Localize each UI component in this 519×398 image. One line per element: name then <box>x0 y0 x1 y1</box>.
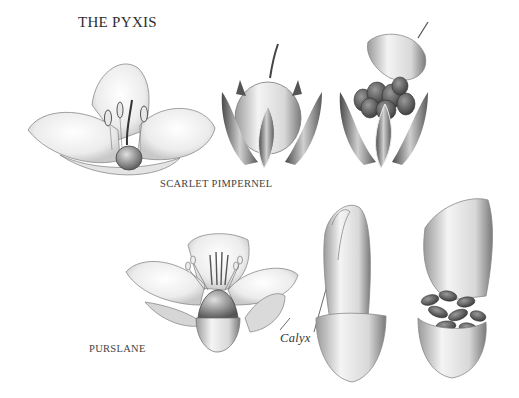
purslane-open-capsule <box>418 199 492 378</box>
plate-title: THE PYXIS <box>78 14 157 31</box>
purslane-closed-capsule <box>316 205 386 382</box>
botanical-plate: THE PYXIS SCARLET PIMPERNEL PURSLANE Cal… <box>0 0 519 398</box>
annotation-calyx: Calyx <box>280 331 311 346</box>
section-label-scarlet-pimpernel: SCARLET PIMPERNEL <box>160 178 273 189</box>
pimpernel-closed-capsule <box>222 44 322 168</box>
pimpernel-open-capsule <box>340 22 428 168</box>
purslane-open-flower <box>126 234 298 352</box>
pimpernel-open-flower <box>28 64 215 175</box>
section-label-purslane: PURSLANE <box>89 343 146 354</box>
illustrations <box>0 0 519 398</box>
calyx-leader-line-2 <box>280 318 290 330</box>
